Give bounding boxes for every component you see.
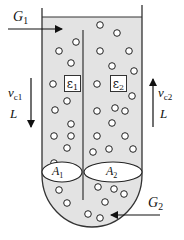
holdup-2-sub: 2 <box>119 83 124 92</box>
velocity-1-label: vc1 <box>8 86 22 102</box>
area-1-label: A1 <box>52 164 63 180</box>
area-1-sub: 1 <box>59 171 63 180</box>
velocity-2-label: vc2 <box>158 86 172 102</box>
gas-inlet-1-sub: 1 <box>23 15 28 26</box>
area-2-label: A2 <box>106 164 117 180</box>
velocity-1-sub: c1 <box>14 92 23 102</box>
gas-inlet-2-sub: 2 <box>158 201 163 212</box>
velocity-2-sub: c2 <box>164 92 173 102</box>
area-2-sub: 2 <box>113 171 117 180</box>
holdup-1-sub: 1 <box>73 83 78 92</box>
holdup-2-box: ε2 <box>110 75 127 92</box>
length-left-label: L <box>10 107 17 120</box>
gas-inlet-1-label: G1 <box>13 10 28 26</box>
gas-inlet-2-main: G <box>148 195 158 210</box>
length-right-label: L <box>160 107 167 120</box>
gas-inlet-1-main: G <box>13 9 23 24</box>
gas-inlet-2-label: G2 <box>148 196 163 212</box>
reactor-diagram: G1 G2 vc1 L vc2 L ε1 ε2 A1 A2 <box>0 0 184 240</box>
holdup-1-box: ε1 <box>64 75 81 92</box>
